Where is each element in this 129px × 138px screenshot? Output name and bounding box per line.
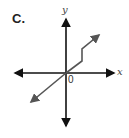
graph-diagram [0,0,129,138]
function-line [31,35,99,102]
